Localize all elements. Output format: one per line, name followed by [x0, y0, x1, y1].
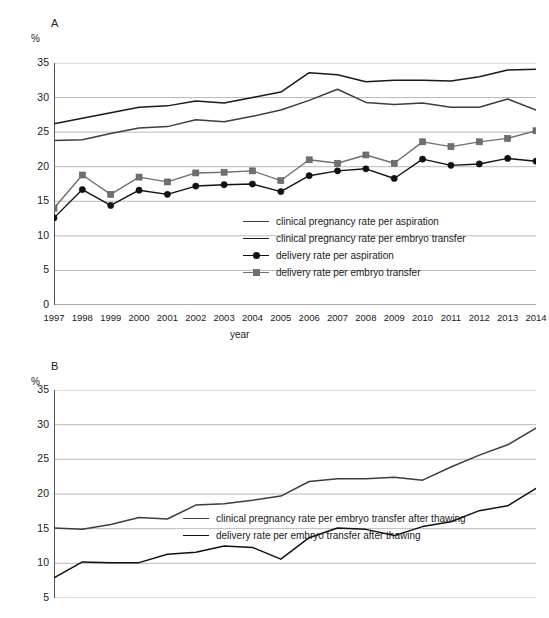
data-point-marker	[164, 191, 170, 197]
y-tick-label: 15	[27, 194, 49, 206]
data-point-marker	[448, 162, 454, 168]
data-point-marker	[249, 181, 255, 187]
x-tick-label: 2008	[353, 312, 379, 323]
legend-swatch-icon	[243, 250, 269, 262]
legend-swatch-icon	[243, 216, 269, 228]
y-tick-label: 25	[27, 125, 49, 137]
x-tick-label: 2012	[466, 312, 492, 323]
legend-swatch-icon	[243, 267, 269, 279]
data-point-marker	[278, 178, 284, 184]
data-point-marker	[221, 182, 227, 188]
y-tick-label: 25	[27, 452, 49, 464]
data-point-marker	[54, 205, 57, 211]
series-line	[54, 69, 536, 124]
data-point-marker	[136, 187, 142, 193]
data-point-marker	[136, 174, 142, 180]
x-tick-label: 2011	[438, 312, 464, 323]
x-tick-label: 1999	[98, 312, 124, 323]
y-tick-label: 30	[27, 91, 49, 103]
x-tick-label: 2001	[154, 312, 180, 323]
y-tick-label: 10	[27, 229, 49, 241]
data-point-marker	[363, 166, 369, 172]
data-point-marker	[476, 161, 482, 167]
legend-label: delivery rate per embryo transfer after …	[216, 530, 421, 541]
y-tick-label: 35	[27, 383, 49, 395]
legend-swatch-icon	[183, 530, 209, 542]
data-point-marker	[505, 155, 511, 161]
x-tick-label: 2004	[239, 312, 265, 323]
data-point-marker	[249, 168, 255, 174]
legend-label: clinical pregnancy rate per embryo trans…	[276, 233, 466, 244]
legend-item: delivery rate per embryo transfer	[243, 264, 466, 281]
data-point-marker	[306, 157, 312, 163]
series-line	[54, 158, 536, 217]
legend-label: delivery rate per embryo transfer	[276, 267, 421, 278]
data-point-marker	[533, 128, 536, 134]
y-tick-label: 35	[27, 56, 49, 68]
y-tick-label: 0	[27, 298, 49, 310]
y-tick-label: 30	[27, 418, 49, 430]
x-tick-label: 2005	[268, 312, 294, 323]
legend-item: delivery rate per aspiration	[243, 247, 466, 264]
legend-item: clinical pregnancy rate per embryo trans…	[183, 510, 466, 527]
panel-a-legend: clinical pregnancy rate per aspirationcl…	[243, 213, 466, 281]
y-tick-label: 5	[27, 263, 49, 275]
y-tick-label: 10	[27, 556, 49, 568]
data-point-marker	[164, 179, 170, 185]
data-point-marker	[221, 169, 227, 175]
x-tick-label: 2014	[523, 312, 549, 323]
x-tick-label: 1997	[41, 312, 67, 323]
panel-a-letter: A	[51, 17, 58, 29]
legend-item: clinical pregnancy rate per embryo trans…	[243, 230, 466, 247]
x-tick-label: 2010	[410, 312, 436, 323]
x-tick-label: 2002	[183, 312, 209, 323]
legend-label: clinical pregnancy rate per aspiration	[276, 216, 439, 227]
panel-b-letter: B	[51, 360, 58, 372]
chart-panel-a: A % 05101520253035 199719981999200020012…	[0, 0, 541, 345]
data-point-marker	[334, 168, 340, 174]
x-tick-label: 2013	[495, 312, 521, 323]
data-point-marker	[278, 189, 284, 195]
data-point-marker	[420, 139, 426, 145]
data-point-marker	[505, 135, 511, 141]
data-point-marker	[193, 170, 199, 176]
x-tick-label: 2006	[296, 312, 322, 323]
legend-swatch-icon	[243, 233, 269, 245]
data-point-marker	[79, 172, 85, 178]
series-line	[54, 89, 536, 140]
x-tick-label: 2000	[126, 312, 152, 323]
data-point-marker	[476, 139, 482, 145]
data-point-marker	[419, 156, 425, 162]
panel-b-svg	[54, 390, 536, 598]
data-point-marker	[108, 202, 114, 208]
chart-panel-b: B % 5101520253035 clinical pregnancy rat…	[0, 345, 541, 618]
data-point-marker	[533, 158, 536, 164]
legend-label: clinical pregnancy rate per embryo trans…	[216, 513, 466, 524]
x-tick-label: 2003	[211, 312, 237, 323]
data-point-marker	[335, 160, 341, 166]
y-tick-label: 5	[27, 591, 49, 603]
legend-label: delivery rate per aspiration	[276, 250, 394, 261]
y-tick-label: 20	[27, 487, 49, 499]
data-point-marker	[448, 144, 454, 150]
y-tick-label: 20	[27, 160, 49, 172]
panel-a-y-unit: %	[31, 33, 40, 44]
data-point-marker	[79, 186, 85, 192]
data-point-marker	[193, 183, 199, 189]
y-tick-label: 15	[27, 522, 49, 534]
panel-a-x-axis-title: year	[230, 329, 249, 340]
data-point-marker	[108, 191, 114, 197]
data-point-marker	[363, 152, 369, 158]
panel-b-plot-area	[54, 390, 536, 598]
legend-item: clinical pregnancy rate per aspiration	[243, 213, 466, 230]
x-tick-label: 2007	[325, 312, 351, 323]
data-point-marker	[306, 173, 312, 179]
legend-item: delivery rate per embryo transfer after …	[183, 527, 466, 544]
x-tick-label: 1998	[69, 312, 95, 323]
data-point-marker	[391, 175, 397, 181]
x-tick-label: 2009	[381, 312, 407, 323]
legend-swatch-icon	[183, 513, 209, 525]
data-point-marker	[391, 160, 397, 166]
panel-b-legend: clinical pregnancy rate per embryo trans…	[183, 510, 466, 544]
